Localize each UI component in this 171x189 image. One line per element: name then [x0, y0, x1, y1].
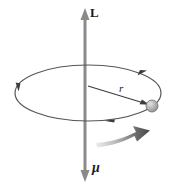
magnetic-moment-label: μ [92, 161, 100, 175]
radius-label: r [119, 83, 123, 94]
particle-sphere [146, 100, 158, 112]
figure-canvas [0, 0, 171, 189]
angular-momentum-arrowhead [81, 8, 90, 20]
physics-figure: L μ r [0, 0, 171, 189]
magnetic-moment-arrowhead [81, 170, 90, 182]
radius-line [88, 86, 147, 104]
angular-momentum-label: L [90, 6, 99, 19]
motion-arrow [96, 126, 150, 148]
